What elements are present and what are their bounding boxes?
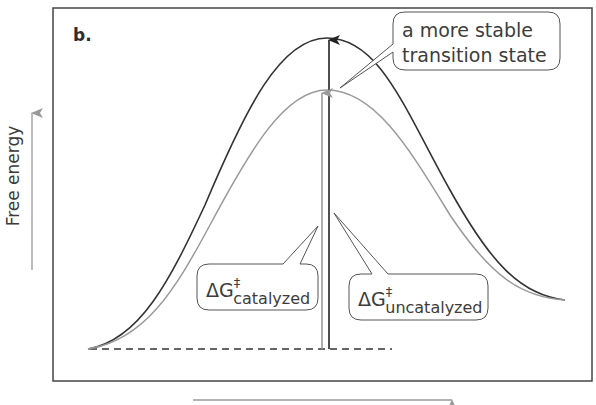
callout-transition-state: a more stable transition state	[340, 12, 560, 88]
panel-label: b.	[73, 25, 92, 45]
callout-uncatalyzed: ΔG‡uncatalyzed	[334, 213, 488, 320]
subscript-catalyzed: catalyzed	[233, 289, 310, 308]
callout-transition-line1: a more stable	[402, 19, 533, 41]
energy-diagram: b. Free energy a more stable transition …	[0, 0, 596, 405]
callout-transition-line2: transition state	[402, 44, 547, 66]
catalyzed-curve	[88, 90, 565, 349]
delta-g-symbol: ΔG	[206, 279, 234, 301]
subscript-uncatalyzed: uncatalyzed	[385, 298, 482, 317]
callout-catalyzed: ΔG‡catalyzed	[197, 226, 318, 310]
uncatalyzed-curve	[88, 38, 565, 349]
double-dagger: ‡	[386, 284, 393, 299]
y-axis-label: Free energy	[3, 126, 23, 227]
double-dagger: ‡	[234, 275, 241, 290]
delta-g-symbol: ΔG	[358, 288, 386, 310]
